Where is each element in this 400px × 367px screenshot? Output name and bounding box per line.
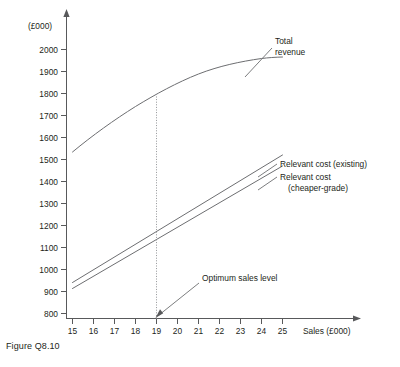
figure-container: 2000 1900 1800 1700 1600 1500 1400 1300 … (0, 0, 400, 367)
x-tick-label: 22 (215, 326, 225, 336)
x-tick-label: 17 (110, 326, 120, 336)
x-tick-label: 20 (173, 326, 183, 336)
y-tick-label: 1900 (39, 67, 58, 77)
y-axis-arrow-icon (63, 9, 69, 17)
y-tick-label: 1700 (39, 111, 58, 121)
y-tick-label: 800 (44, 309, 58, 319)
y-tick-label: 1200 (39, 221, 58, 231)
series-relevant-cost-existing (73, 155, 283, 283)
figure-caption: Figure Q8.10 (6, 341, 60, 351)
y-tick-label: 1800 (39, 89, 58, 99)
y-tick-label: 1500 (39, 155, 58, 165)
x-tick-label: 23 (236, 326, 246, 336)
y-axis-ticks: 2000 1900 1800 1700 1600 1500 1400 1300 … (39, 45, 66, 319)
y-tick-label: 1600 (39, 133, 58, 143)
total-revenue-label-line2: revenue (275, 47, 306, 57)
series-total-revenue (73, 57, 283, 152)
x-tick-label: 18 (131, 326, 141, 336)
relevant-cost-existing-label: Relevant cost (existing) (280, 159, 367, 169)
total-revenue-leader-line (245, 48, 272, 77)
x-tick-label: 24 (257, 326, 267, 336)
y-axis-unit-label: (£000) (28, 21, 52, 31)
y-tick-label: 1100 (40, 243, 58, 253)
chart-canvas: 2000 1900 1800 1700 1600 1500 1400 1300 … (0, 0, 400, 367)
series-relevant-cost-cheaper-grade (73, 166, 283, 289)
relevant-cost-cheaper-label-line1: Relevant cost (280, 172, 331, 182)
relevant-cost-cheaper-label-line2: (cheaper-grade) (288, 183, 348, 193)
y-tick-label: 1400 (39, 177, 58, 187)
annotation-optimum-sales-level: Optimum sales level (156, 273, 278, 318)
y-tick-label: 900 (44, 287, 58, 297)
x-tick-label: 15 (68, 326, 78, 336)
x-tick-label: 16 (89, 326, 99, 336)
total-revenue-label-line1: Total (275, 36, 293, 46)
x-tick-label: 19 (152, 326, 162, 336)
x-axis-ticks: 15 16 17 18 19 20 21 22 23 24 25 (68, 319, 288, 337)
x-tick-label: 21 (194, 326, 204, 336)
x-axis-title: Sales (£000) (303, 326, 351, 336)
x-tick-label: 25 (278, 326, 288, 336)
annotation-relevant-cost-cheaper-grade: Relevant cost (cheaper-grade) (258, 172, 348, 193)
x-axis-arrow-icon (353, 315, 361, 321)
annotation-total-revenue: Total revenue (245, 36, 306, 77)
optimum-sales-arrow-line (159, 283, 199, 315)
y-tick-label: 2000 (39, 45, 58, 55)
y-tick-label: 1000 (39, 265, 58, 275)
optimum-sales-level-label: Optimum sales level (202, 273, 278, 283)
y-tick-label: 1300 (39, 199, 58, 209)
